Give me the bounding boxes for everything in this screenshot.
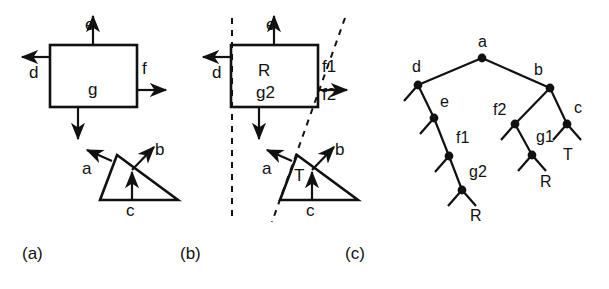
panel-b-label-c: c [306,202,315,219]
panel-c-leaf-label-R-right: R [540,174,552,190]
panel-a-label-b: b [155,141,164,158]
panel-b [203,16,358,222]
tree-node-label-d: d [412,59,421,75]
tree-node-label-e: e [440,94,449,110]
panel-a-label-g: g [88,81,97,98]
panel-b-label-f1: f1 [322,58,336,75]
panel-b-label-e: e [266,16,275,33]
panel-a-normal-b [132,147,154,170]
tree-node-label-g1: g1 [536,129,554,145]
tree-node-label-a: a [478,34,487,50]
tree-edge-d-e [418,85,434,118]
tree-node-label-g2: g2 [469,164,487,180]
panel-caption-a: (a) [22,245,43,262]
tree-node-label-f1: f1 [456,130,469,146]
panel-a-label-d: d [29,64,38,81]
panel-c-leaf-label-R-left: R [470,208,482,224]
panel-b-label-g2: g2 [256,84,275,101]
tree-node-label-f2: f2 [493,102,506,118]
panel-a-label-c: c [126,202,135,219]
panel-b-label-d: d [212,64,221,81]
panel-a-label-a: a [82,160,91,177]
tree-edge-f1-g2 [449,156,462,190]
panel-a-label-e: e [85,16,94,33]
panel-c-leaf-label-T: T [563,147,573,163]
tree-node-label-b: b [534,62,543,78]
panel-a-label-f: f [142,60,147,77]
tree-node-f2[interactable] [511,120,520,129]
tree-node-g2[interactable] [458,186,467,195]
figure-canvas [0,0,609,289]
tree-edge-b-c [550,88,567,124]
tree-edge-f2-g1 [515,124,532,155]
tree-edge-b-f2 [515,88,550,124]
panel-b-region-label-R: R [258,62,270,79]
tree-node-a[interactable] [478,54,487,63]
panel-caption-b: (b) [180,245,201,262]
panel-b-label-b: b [335,141,344,158]
tree-node-f1[interactable] [445,152,454,161]
panel-b-region-label-T: T [294,167,304,184]
tree-node-label-c: c [574,100,582,116]
tree-node-e[interactable] [430,114,439,123]
tree-edge-e-f1 [434,118,449,156]
panel-b-normal-b [312,147,334,170]
panel-b-label-f2: f2 [322,86,336,103]
tree-edge-a-d [418,58,482,85]
tree-node-b[interactable] [546,84,555,93]
panel-caption-c: (c) [345,245,365,262]
panel-c-tree [404,54,581,206]
panel-b-label-a: a [262,160,271,177]
tree-node-d[interactable] [414,81,423,90]
tree-node-c[interactable] [563,120,572,129]
tree-node-g1[interactable] [528,151,537,160]
panel-a [22,16,178,200]
